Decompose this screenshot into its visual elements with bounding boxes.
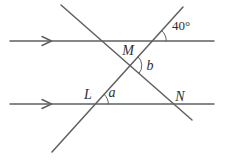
point-label-n: N [174,89,185,104]
geometry-diagram: 40° M b L a N [0,0,225,161]
angle-label-b: b [147,58,154,73]
label-group: 40° M b L a N [83,18,190,104]
diagram-canvas: 40° M b L a N [0,0,225,161]
transversal-ascending [52,7,183,152]
angle-arc-40deg [162,31,167,41]
angle-arc-b [138,57,142,74]
angle-value-label-40deg: 40° [172,18,190,33]
angle-label-a: a [109,85,116,100]
point-label-l: L [83,87,92,102]
point-label-m: M [121,43,135,58]
